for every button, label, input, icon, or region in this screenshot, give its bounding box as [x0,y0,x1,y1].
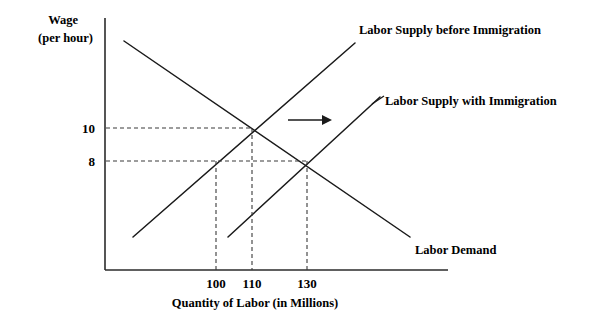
x-tick-label-100: 100 [206,276,226,291]
labor-market-immigration-figure: Wage (per hour) 10 8 100 110 130 Quantit… [0,0,614,333]
x-axis-title: Quantity of Labor (in Millions) [172,296,338,310]
chart-canvas: Wage (per hour) 10 8 100 110 130 Quantit… [0,0,614,333]
supply-shift-arrowhead [322,115,332,125]
y-tick-label-8: 8 [89,154,96,169]
labor-supply-with-curve [228,97,380,237]
y-axis-title-line2: (per hour) [38,31,93,45]
x-tick-label-130: 130 [297,276,317,291]
labor-demand-label: Labor Demand [415,243,496,257]
labor-supply-before-label: Labor Supply before Immigration [359,23,541,37]
x-tick-label-110: 110 [243,276,262,291]
y-axis-title-line1: Wage [48,13,78,27]
y-tick-label-10: 10 [82,121,95,136]
supply-with-leader-line [372,96,384,104]
labor-supply-before-curve [133,43,355,237]
labor-supply-with-label: Labor Supply with Immigration [385,94,557,108]
